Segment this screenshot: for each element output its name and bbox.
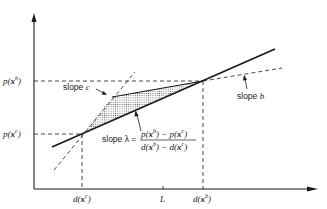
y-axis-arrow-icon bbox=[32, 13, 37, 22]
label-d-xb: d(xb) bbox=[193, 193, 211, 204]
label-slope-b: slope b bbox=[237, 91, 265, 101]
slope-b-line bbox=[203, 68, 282, 81]
slope-lambda-formula: slope λ = p(xb) − p(xc) d(xb) − d(xc) bbox=[102, 128, 196, 152]
x-axis-arrow-icon bbox=[307, 187, 318, 192]
label-slope-c: slope c bbox=[63, 82, 90, 92]
slope-b-arrow-icon bbox=[243, 75, 247, 81]
label-p-xb: p(xb) bbox=[2, 75, 21, 86]
slope-lambda-prefix: slope λ = bbox=[102, 134, 136, 144]
diagram-canvas: p(xb) p(xc) d(xc) L d(xb) slope c slope … bbox=[0, 0, 327, 209]
label-p-xc: p(xc) bbox=[2, 128, 21, 139]
slope-lambda-numerator: p(xb) − p(xc) bbox=[140, 128, 187, 139]
slope-b-pointer bbox=[243, 75, 247, 90]
slope-lambda-pointer bbox=[135, 110, 142, 131]
x-axis bbox=[34, 187, 318, 192]
label-L: L bbox=[159, 194, 165, 204]
slope-lambda-denominator: d(xb) − d(xc) bbox=[141, 141, 187, 152]
slope-c-pointer bbox=[96, 89, 107, 95]
y-axis bbox=[32, 13, 37, 189]
label-d-xc: d(xc) bbox=[73, 193, 91, 204]
slope-c-arrow-icon bbox=[102, 91, 108, 95]
